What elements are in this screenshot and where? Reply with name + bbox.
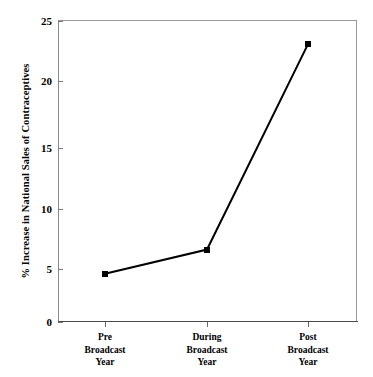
y-tick-mark-25 <box>58 21 63 22</box>
y-tick-label-5: 5 <box>28 264 52 275</box>
y-tick-label-20: 20 <box>28 76 52 87</box>
y-tick-label-0: 0 <box>28 317 52 328</box>
x-tick-label-pre-line3: Year <box>58 356 152 369</box>
y-axis-line <box>58 20 59 322</box>
x-tick-label-pre: Pre Broadcast Year <box>58 331 152 369</box>
line-chart: % Increase in National Sales of Contrace… <box>0 0 373 377</box>
y-tick-mark-0 <box>58 322 63 323</box>
y-tick-label-15: 15 <box>28 143 52 154</box>
y-tick-label-10: 10 <box>28 204 52 215</box>
data-point-pre-broadcast-year <box>102 271 108 277</box>
x-tick-label-during-line2: Broadcast <box>160 344 254 357</box>
y-tick-mark-5 <box>58 269 63 270</box>
x-tick-label-pre-line1: Pre <box>58 331 152 344</box>
x-tick-mark-pre <box>105 322 106 327</box>
data-point-during-broadcast-year <box>204 247 210 253</box>
y-tick-mark-15 <box>58 148 63 149</box>
x-tick-label-post-line3: Year <box>261 356 355 369</box>
y-tick-mark-20 <box>58 81 63 82</box>
x-tick-label-post-line2: Broadcast <box>261 344 355 357</box>
x-tick-label-post-line1: Post <box>261 331 355 344</box>
x-tick-label-during-line3: Year <box>160 356 254 369</box>
x-tick-label-during: During Broadcast Year <box>160 331 254 369</box>
x-tick-label-pre-line2: Broadcast <box>58 344 152 357</box>
x-tick-label-during-line1: During <box>160 331 254 344</box>
x-tick-label-post: Post Broadcast Year <box>261 331 355 369</box>
y-tick-mark-10 <box>58 209 63 210</box>
x-axis-line <box>58 321 358 322</box>
data-point-post-broadcast-year <box>305 41 311 47</box>
plot-area <box>58 20 357 322</box>
y-tick-label-25: 25 <box>28 16 52 27</box>
x-tick-mark-post <box>308 322 309 327</box>
y-axis-title: % Increase in National Sales of Contrace… <box>16 6 34 336</box>
x-tick-mark-during <box>207 322 208 327</box>
